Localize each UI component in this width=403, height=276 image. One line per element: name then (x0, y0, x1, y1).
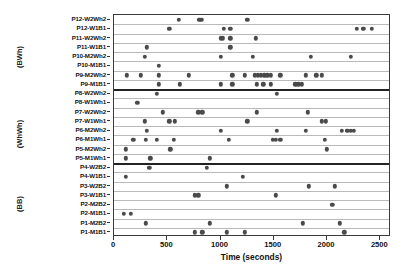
data-point (157, 73, 161, 77)
y-axis-label: P3-W2B2 (80, 181, 106, 190)
y-axis-label: P1-M1B1 (81, 227, 106, 236)
data-point (218, 54, 222, 58)
data-point (361, 27, 365, 31)
data-point (245, 119, 249, 123)
y-axis-label: P9-M1B1 (81, 79, 106, 88)
plot-area (113, 14, 390, 236)
data-point (199, 17, 203, 21)
y-axis-tick (107, 222, 110, 223)
y-axis-label: P4-W1B1 (80, 171, 106, 180)
data-point (144, 138, 148, 142)
data-point (161, 110, 165, 114)
row-gridline (114, 80, 389, 81)
data-point (320, 73, 324, 77)
data-point (218, 128, 222, 132)
data-point (196, 193, 200, 197)
data-point (167, 27, 171, 31)
y-axis-tick (107, 65, 110, 66)
y-axis-tick (107, 194, 110, 195)
y-axis-tick (107, 28, 110, 29)
y-axis-label: P9-M2Wh2 (76, 70, 107, 79)
data-point (124, 175, 128, 179)
y-axis-tick (107, 56, 110, 57)
y-axis-tick (107, 157, 110, 158)
data-point (124, 156, 128, 160)
data-point (157, 64, 161, 68)
data-point (253, 36, 257, 40)
x-axis-tick (166, 236, 167, 240)
data-point (352, 128, 356, 132)
data-point (307, 184, 311, 188)
data-point (355, 27, 359, 31)
y-axis-label: P12-W2Wh2 (71, 14, 106, 23)
row-gridline (114, 108, 389, 109)
data-point (225, 184, 229, 188)
data-point (173, 119, 177, 123)
data-point (278, 73, 282, 77)
y-axis-label: P4-W2B2 (80, 162, 106, 171)
row-gridline (114, 172, 389, 173)
data-point (314, 73, 318, 77)
y-axis-tick (107, 231, 110, 232)
y-axis-tick (107, 139, 110, 140)
data-point (208, 156, 212, 160)
data-point (243, 230, 247, 234)
y-axis-label: P11-W2Wh2 (72, 33, 106, 42)
y-axis-tick (107, 93, 110, 94)
y-axis-label: P7-W1Wh1 (75, 116, 106, 125)
row-gridline (114, 154, 389, 155)
data-point (268, 82, 272, 86)
data-point (227, 138, 231, 142)
data-point (309, 54, 313, 58)
data-point (228, 36, 232, 40)
data-point (243, 73, 247, 77)
data-point (370, 27, 374, 31)
data-point (278, 138, 282, 142)
data-point (218, 82, 222, 86)
y-axis-label: P7-W2Wh2 (75, 107, 106, 116)
data-point (168, 147, 172, 151)
data-point (121, 212, 125, 216)
y-axis-label: P12-W1B1 (77, 23, 106, 32)
y-axis-tick (107, 19, 110, 20)
data-point (138, 73, 142, 77)
data-point (208, 221, 212, 225)
row-gridline (114, 219, 389, 220)
data-point (200, 110, 204, 114)
data-point (230, 73, 234, 77)
y-axis-label: P10-M1B1 (77, 60, 106, 69)
row-gridline (114, 126, 389, 127)
y-axis-label: P11-W1B1 (77, 42, 106, 51)
y-axis-label: P5-M1Wh1 (76, 153, 107, 162)
data-point (147, 165, 151, 169)
x-axis-tick-label: 500 (160, 240, 173, 249)
y-axis-label: P3-W1B1 (80, 190, 106, 199)
y-axis-tick (107, 37, 110, 38)
data-point (304, 73, 308, 77)
y-axis-label: P2-M2B2 (81, 199, 106, 208)
y-axis-tick (107, 185, 110, 186)
row-gridline (114, 200, 389, 201)
row-gridline (114, 52, 389, 53)
data-point (124, 147, 128, 151)
y-axis-tick (107, 120, 110, 121)
y-axis-tick (107, 130, 110, 131)
data-point (154, 138, 158, 142)
y-axis-label: P2-M1B1 (81, 208, 106, 217)
row-gridline (114, 191, 389, 192)
data-point (131, 138, 135, 142)
x-axis-tick-label: 2500 (371, 240, 388, 249)
x-axis-tick (220, 236, 221, 240)
x-axis-tick (379, 236, 380, 240)
row-gridline (114, 228, 389, 229)
data-point (324, 119, 328, 123)
y-axis-tick (107, 148, 110, 149)
x-axis-tick (273, 236, 274, 240)
data-point (154, 91, 158, 95)
row-gridline (114, 24, 389, 25)
data-point (255, 82, 259, 86)
y-axis-tick (107, 83, 110, 84)
group-separator-line (114, 89, 389, 91)
row-gridline (114, 61, 389, 62)
data-point (125, 73, 129, 77)
